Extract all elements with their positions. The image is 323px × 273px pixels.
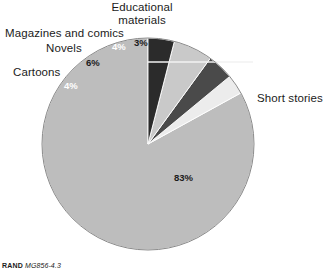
slice-label-cartoons: Cartoons <box>13 66 60 79</box>
slice-value-cartoons: 4% <box>64 80 78 91</box>
slice-value-novels: 6% <box>86 57 100 68</box>
slice-label-novels: Novels <box>46 42 82 55</box>
rand-wordmark: RAND <box>2 262 23 269</box>
slice-label-educational-materials: Educational materials <box>96 1 188 27</box>
figure-source-note: RAND MG856-4.3 <box>2 262 61 269</box>
slice-label-short-stories: Short stories <box>257 92 323 105</box>
figure-number: MG856-4.3 <box>25 262 61 269</box>
pie-slice-group <box>42 38 254 250</box>
slice-label-magazines-and-comics: Magazines and comics <box>5 27 124 40</box>
slice-value-short-stories: 83% <box>174 172 193 183</box>
slice-value-educational-materials: 3% <box>134 37 148 48</box>
slice-value-magazines-and-comics: 4% <box>112 41 126 52</box>
